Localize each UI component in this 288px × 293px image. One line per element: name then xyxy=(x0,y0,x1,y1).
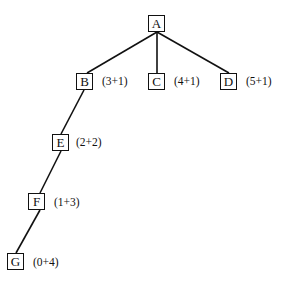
edge-b-e xyxy=(61,90,84,134)
node-c: C xyxy=(148,73,165,90)
node-d: D xyxy=(220,73,237,90)
node-f-cost: (1+3) xyxy=(54,195,80,209)
edge-a-d xyxy=(157,32,229,73)
node-g: G xyxy=(7,253,24,270)
node-g-cost: (0+4) xyxy=(33,255,59,269)
node-b-cost: (3+1) xyxy=(102,74,128,88)
node-b: B xyxy=(76,73,93,90)
node-f: F xyxy=(28,193,45,210)
tree-edges xyxy=(0,0,288,293)
edge-f-g xyxy=(16,210,40,253)
edge-a-b xyxy=(87,32,157,73)
node-e-cost: (2+2) xyxy=(76,135,102,149)
node-e: E xyxy=(52,134,69,151)
node-d-cost: (5+1) xyxy=(246,74,272,88)
edge-e-f xyxy=(40,151,61,193)
node-c-cost: (4+1) xyxy=(174,74,200,88)
node-a: A xyxy=(148,15,165,32)
